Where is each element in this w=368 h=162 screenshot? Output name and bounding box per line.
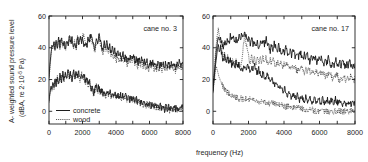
y-tick-label: 0 — [206, 107, 210, 116]
traces — [213, 28, 355, 115]
traces — [49, 33, 183, 113]
panel-title: cane no. 3 — [143, 24, 177, 33]
y-axis-label-line2-pre: (dBA, re 2 — [18, 85, 26, 117]
y-tick-label: 0 — [42, 107, 46, 116]
x-tick-label: 6000 — [312, 128, 328, 137]
legend-label-wood: wood — [72, 115, 90, 124]
y-axis-label-line2: (dBA, re 2·10-5 Pa) — [17, 58, 26, 117]
y-axis-label: A- weighted sound pressure level (dBA, r… — [8, 19, 26, 123]
x-tick-label: 8000 — [347, 128, 363, 137]
y-axis-label-line2-post: Pa) — [18, 58, 26, 71]
y-axis-label-line1: A- weighted sound pressure level — [8, 19, 16, 123]
legend-label-concrete: concrete — [73, 106, 101, 115]
x-tick-label: 0 — [47, 128, 51, 137]
figure-canvas: A- weighted sound pressure level (dBA, r… — [0, 0, 368, 162]
x-tick-label: 2000 — [241, 128, 257, 137]
panel-1: 020004000600080000204060cane no. 3 — [38, 12, 191, 137]
trace-wood-1 — [213, 28, 355, 92]
y-tick-label: 20 — [202, 75, 210, 84]
x-axis-label: frequency (Hz) — [196, 148, 243, 157]
x-tick-label: 0 — [211, 128, 215, 137]
x-tick-label: 4000 — [108, 128, 124, 137]
legend: concretewood — [56, 106, 101, 124]
x-tick-label: 6000 — [142, 128, 158, 137]
panel-2: 020004000600080000204060cane no. 17 — [202, 12, 363, 137]
spectrum-figure: A- weighted sound pressure level (dBA, r… — [0, 0, 368, 162]
y-tick-label: 40 — [202, 43, 210, 52]
x-tick-label: 4000 — [276, 128, 292, 137]
panel-title: cane no. 17 — [311, 24, 349, 33]
x-tick-label: 2000 — [75, 128, 91, 137]
x-tick-label: 8000 — [175, 128, 191, 137]
y-tick-label: 60 — [38, 12, 46, 21]
y-axis-label-line2-mul: ·10 — [18, 75, 25, 85]
y-tick-label: 20 — [38, 75, 46, 84]
y-tick-label: 40 — [38, 43, 46, 52]
y-tick-label: 60 — [202, 12, 210, 21]
